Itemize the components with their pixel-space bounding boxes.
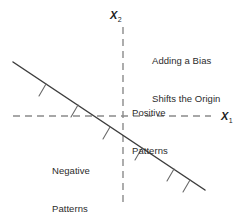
- axis-label-x2-letter: X: [110, 9, 117, 21]
- hatch-mark: [39, 84, 46, 96]
- axis-label-x1-subscript: 1: [229, 117, 233, 124]
- hatch-mark: [167, 169, 174, 181]
- label-positive-patterns: Positive Patterns: [132, 82, 168, 182]
- hatch-mark: [183, 180, 190, 192]
- axis-label-x1: X1: [221, 110, 232, 122]
- axis-label-x2-subscript: 2: [118, 16, 122, 23]
- axis-label-x1-letter: X: [221, 110, 228, 122]
- caption-line-1: Adding a Bias: [152, 55, 220, 68]
- positive-line-2: Patterns: [132, 145, 168, 158]
- positive-line-1: Positive: [132, 107, 168, 120]
- hatch-mark: [71, 105, 78, 117]
- hatch-mark: [103, 127, 110, 139]
- figure-canvas: Adding a Bias Shifts the Origin Positive…: [0, 0, 251, 214]
- label-negative-patterns: Negative Patterns: [52, 140, 90, 214]
- axis-label-x2: X2: [110, 9, 121, 21]
- negative-line-2: Patterns: [52, 203, 90, 215]
- negative-line-1: Negative: [52, 165, 90, 178]
